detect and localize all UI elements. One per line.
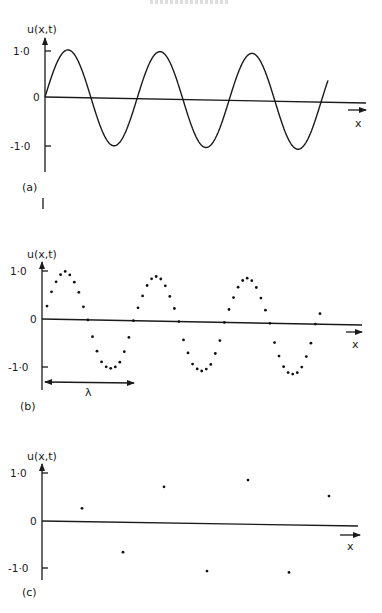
sample-dot	[296, 371, 299, 374]
sample-dot	[46, 305, 49, 308]
sample-dot	[178, 320, 181, 323]
sample-dot	[200, 370, 203, 373]
sample-dot	[228, 308, 231, 311]
sample-dot	[191, 363, 194, 366]
sample-dot	[255, 286, 258, 289]
sample-dot	[291, 373, 294, 376]
x-axis-label: x	[355, 117, 362, 130]
sample-dot	[269, 322, 272, 325]
y-tick-label: 1·0	[10, 467, 27, 479]
sample-dot	[247, 479, 250, 482]
sample-dot	[81, 507, 84, 510]
wavelength-label: λ	[85, 386, 92, 399]
wavelength-arrow	[45, 382, 134, 383]
y-axis-label: u(x,t)	[27, 23, 57, 36]
sample-dot	[206, 570, 209, 573]
sample-dot	[246, 277, 249, 280]
sample-dot	[164, 284, 167, 287]
sample-dot	[264, 309, 267, 312]
sample-dot	[132, 319, 135, 322]
sample-dot	[205, 368, 208, 371]
y-tick-label: -1·0	[8, 361, 29, 373]
sample-dot	[91, 335, 94, 338]
sample-dot	[314, 323, 317, 326]
y-tick-label: 0	[33, 91, 40, 103]
sample-dot	[82, 305, 85, 308]
sample-dot	[122, 551, 125, 554]
y-axis-label: u(x,t)	[27, 450, 57, 463]
sample-dot	[155, 275, 158, 278]
sample-dot	[223, 321, 226, 324]
y-tick-label: 0	[30, 515, 37, 527]
sample-dot	[163, 485, 166, 488]
sample-dot	[310, 342, 313, 345]
sample-dot	[328, 495, 331, 498]
sample-dot	[187, 352, 190, 355]
sample-dot	[214, 352, 217, 355]
sample-dot	[196, 368, 199, 371]
x-axis	[45, 97, 366, 103]
sample-dot	[300, 366, 303, 369]
sample-dot	[137, 306, 140, 309]
sample-dot	[237, 286, 240, 289]
sample-dot	[219, 339, 222, 342]
sample-dot	[278, 355, 281, 358]
sample-dot	[173, 307, 176, 310]
x-axis	[42, 521, 358, 526]
sample-dot	[241, 279, 244, 282]
sample-dot	[287, 371, 290, 374]
sample-dot	[87, 319, 90, 322]
sample-dot	[141, 295, 144, 298]
sample-dot	[209, 363, 212, 366]
sample-dot	[96, 350, 99, 353]
y-axis-label: u(x,t)	[27, 248, 57, 261]
y-tick-label: -1·0	[10, 140, 31, 152]
sample-dot	[159, 278, 162, 281]
panel-c: u(x,t) 1·0 0 -1·0 x (c)	[8, 450, 360, 599]
sample-dot	[232, 296, 235, 299]
sample-dot	[182, 339, 185, 342]
sample-dot	[273, 341, 276, 344]
x-axis-label: x	[347, 540, 354, 553]
sample-dot	[319, 312, 322, 315]
panel-label: (a)	[22, 181, 37, 194]
sample-dot	[59, 273, 62, 276]
sample-dot	[114, 366, 117, 369]
y-tick-label: 0	[30, 313, 37, 325]
sample-dot	[305, 355, 308, 358]
sample-dot	[68, 274, 71, 277]
sample-dot	[123, 350, 126, 353]
sample-dot	[288, 571, 291, 574]
panel-label: (b)	[20, 400, 36, 413]
panel-a: u(x,t) 1·0 0 -1·0 x (a)	[10, 23, 366, 209]
figure: u(x,t) 1·0 0 -1·0 x (a) u(x,t) 1·0 0 -1·…	[0, 0, 382, 613]
sample-dot	[109, 367, 112, 370]
sample-dot	[73, 281, 76, 284]
sample-dot	[282, 365, 285, 368]
sample-dot	[146, 284, 149, 287]
y-tick-label: 1·0	[10, 265, 27, 277]
sample-dot	[260, 297, 263, 300]
sample-dot	[250, 279, 253, 282]
sample-points	[46, 270, 322, 376]
sample-dot	[150, 277, 153, 280]
panel-b: u(x,t) 1·0 0 -1·0 x λ (b)	[8, 248, 362, 413]
y-tick-label: 1·0	[13, 45, 30, 57]
y-tick-label: -1·0	[8, 562, 29, 574]
sample-dot	[77, 291, 80, 294]
x-axis-label: x	[352, 338, 359, 351]
sample-dot	[118, 361, 121, 364]
sample-dot	[55, 280, 58, 283]
sample-dot	[168, 295, 171, 298]
sample-dot	[127, 336, 130, 339]
sample-dot	[64, 270, 67, 273]
sample-dot	[50, 290, 53, 293]
sample-dot	[105, 365, 108, 368]
sample-dot	[100, 361, 103, 364]
panel-label: (c)	[22, 586, 37, 599]
sample-points	[81, 479, 331, 574]
